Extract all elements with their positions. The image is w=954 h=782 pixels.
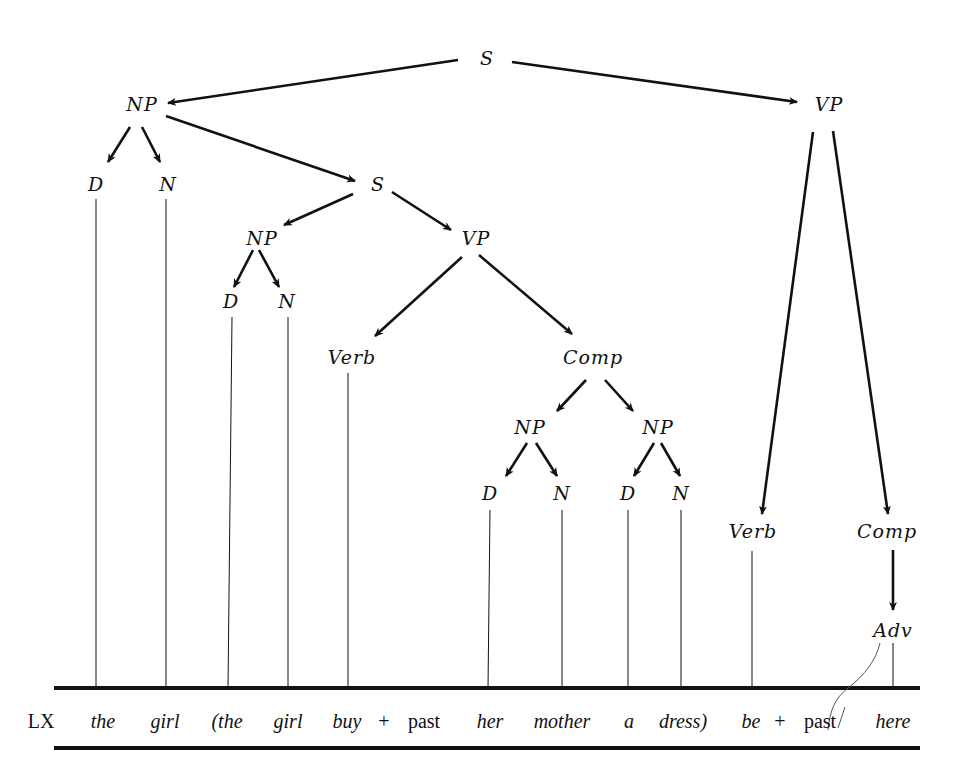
lexical-item: be bbox=[742, 710, 761, 733]
node-comp1: Comp bbox=[563, 346, 623, 368]
arrow-np3-to-d3 bbox=[506, 443, 527, 476]
arrow-np2-to-d2 bbox=[234, 250, 253, 287]
lexical-row-label: LX bbox=[28, 710, 55, 733]
arrow-s1-to-np2 bbox=[284, 194, 353, 225]
node-comp2: Comp bbox=[857, 520, 917, 542]
arrow-vp2-to-comp1 bbox=[479, 255, 572, 334]
lexical-item: buy bbox=[333, 710, 362, 733]
arrow-np4-to-d4 bbox=[634, 443, 654, 476]
lexical-item: the bbox=[91, 710, 115, 733]
lexical-item: + bbox=[774, 710, 785, 733]
node-np2: NP bbox=[246, 227, 277, 249]
lexical-item: a bbox=[624, 710, 634, 733]
terminal-line bbox=[488, 510, 490, 688]
node-vp1: VP bbox=[815, 93, 844, 115]
arrow-np1-to-d1 bbox=[108, 127, 130, 162]
tree-edges bbox=[0, 0, 954, 782]
node-n4: N bbox=[672, 482, 690, 504]
node-d2: D bbox=[223, 290, 239, 312]
lexical-item: past bbox=[408, 710, 440, 733]
arrow-vp1-to-comp2 bbox=[833, 131, 888, 514]
lexical-item: girl bbox=[274, 710, 303, 733]
node-np3: NP bbox=[514, 416, 545, 438]
arrow-comp1-to-np3 bbox=[557, 380, 586, 411]
arrow-comp1-to-np4 bbox=[605, 380, 633, 411]
node-np1: NP bbox=[126, 93, 157, 115]
arrow-np2-to-n2 bbox=[259, 250, 279, 287]
node-d4: D bbox=[620, 482, 636, 504]
node-np4: NP bbox=[642, 416, 673, 438]
terminal-line bbox=[228, 317, 232, 688]
arrow-s0-to-vp1 bbox=[512, 62, 797, 102]
lexical-item: mother bbox=[534, 710, 591, 733]
arrow-s0-to-np1 bbox=[168, 60, 458, 103]
node-s1: S bbox=[371, 173, 385, 195]
lexical-item: past bbox=[804, 710, 836, 733]
node-d3: D bbox=[482, 482, 498, 504]
node-n3: N bbox=[553, 482, 571, 504]
node-vp2: VP bbox=[462, 227, 491, 249]
node-n2: N bbox=[278, 290, 296, 312]
node-d1: D bbox=[88, 173, 104, 195]
lexical-item: here bbox=[876, 710, 911, 733]
lexical-item: her bbox=[477, 710, 504, 733]
node-s0: S bbox=[480, 47, 494, 69]
arrow-vp2-to-verb1 bbox=[375, 257, 462, 336]
arrow-np4-to-n4 bbox=[661, 443, 680, 476]
arrow-np1-to-n1 bbox=[142, 127, 160, 162]
arrow-np1-to-s1 bbox=[166, 116, 355, 181]
arrow-vp1-to-verb2 bbox=[762, 132, 813, 514]
node-adv: Adv bbox=[873, 619, 913, 641]
lexical-item: + bbox=[378, 710, 389, 733]
arrow-s1-to-vp2 bbox=[392, 192, 451, 230]
node-verb2: Verb bbox=[729, 520, 777, 542]
terminal-lines bbox=[96, 199, 893, 688]
lexical-item: (the bbox=[211, 710, 242, 733]
phrase-structure-diagram: SNPVPDNSNPVPDNVerbCompNPNPDNDNVerbCompAd… bbox=[0, 0, 954, 782]
lexical-item: dress) bbox=[659, 710, 707, 733]
lexical-item: girl bbox=[151, 710, 180, 733]
node-verb1: Verb bbox=[328, 346, 376, 368]
arrow-np3-to-n3 bbox=[536, 443, 557, 476]
node-n1: N bbox=[159, 173, 177, 195]
